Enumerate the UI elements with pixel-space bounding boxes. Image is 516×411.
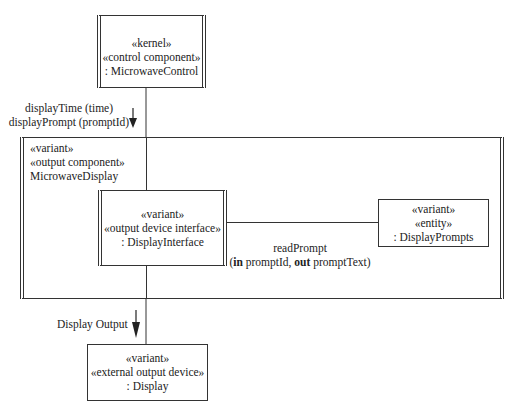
message-read-prompt-params: (in promptId, out promptText) (224, 255, 376, 269)
message-display-time: displayTime (time) (8, 101, 130, 115)
display-interface-stereotype-output: «output device interface» (98, 221, 227, 235)
display-interface-name: : DisplayInterface (98, 235, 227, 249)
in-keyword: in (233, 256, 243, 268)
connector-control-interface (146, 137, 147, 190)
arrow-down-icon (129, 108, 137, 128)
microwave-control-stereotype-kernel: «kernel» (97, 36, 206, 50)
display-interface-stereotype-variant: «variant» (98, 207, 227, 221)
message-display-prompt: displayPrompt (promptId) (8, 115, 130, 129)
out-keyword: out (294, 256, 310, 268)
microwave-display-stereotype-output: «output component» (30, 155, 125, 169)
display-prompts-stereotype-variant: «variant» (378, 202, 489, 216)
display-prompts-stereotype-entity: «entity» (378, 216, 489, 230)
microwave-control-stereotype-control: «control component» (97, 50, 206, 64)
display-stereotype-variant: «variant» (87, 351, 208, 365)
connector-interface-display (146, 265, 147, 299)
message-read-prompt-name: readPrompt (230, 241, 370, 255)
in-param: promptId, (243, 256, 294, 268)
microwave-control-name: : MicrowaveControl (97, 64, 206, 78)
microwave-display-name: MicrowaveDisplay (30, 169, 118, 183)
display-name: : Display (87, 379, 208, 393)
display-prompts-name: : DisplayPrompts (378, 230, 489, 244)
display-stereotype-external: «external output device» (87, 365, 208, 379)
connector-interface-prompts (227, 222, 378, 223)
message-display-output: Display Output (57, 317, 128, 331)
microwave-display-stereotype-variant: «variant» (30, 141, 73, 155)
arrow-down-icon (132, 310, 140, 338)
out-param: promptText) (310, 256, 370, 268)
